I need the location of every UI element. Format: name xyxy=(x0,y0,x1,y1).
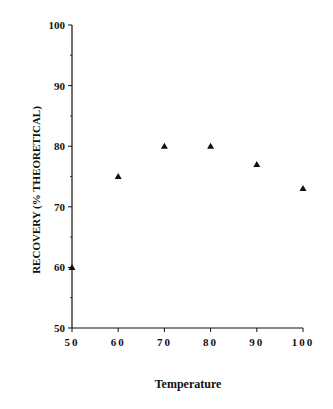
y-tick-label: 60 xyxy=(54,261,66,273)
triangle-marker xyxy=(253,161,260,167)
axes: 50607080901005060708090100 xyxy=(49,19,315,348)
x-tick-label: 90 xyxy=(249,336,264,348)
x-tick-label: 100 xyxy=(292,336,315,348)
triangle-marker xyxy=(300,185,307,191)
x-tick-label: 70 xyxy=(157,336,172,348)
triangle-marker xyxy=(115,173,122,179)
x-tick-label: 80 xyxy=(203,336,218,348)
triangle-marker xyxy=(161,143,168,149)
x-tick-label: 50 xyxy=(65,336,80,348)
scatter-chart: 50607080901005060708090100 Temperature R… xyxy=(0,0,333,409)
y-tick-label: 90 xyxy=(54,80,66,92)
y-tick-label: 80 xyxy=(54,140,66,152)
x-tick-label: 60 xyxy=(111,336,126,348)
y-tick-label: 70 xyxy=(54,201,66,213)
y-axis-title: RECOVERY (% THEORETICAL) xyxy=(30,106,43,274)
data-points xyxy=(69,143,307,270)
x-axis-title: Temperature xyxy=(155,377,222,391)
triangle-marker xyxy=(207,143,214,149)
y-tick-label: 50 xyxy=(54,322,66,334)
y-tick-label: 100 xyxy=(49,19,66,31)
